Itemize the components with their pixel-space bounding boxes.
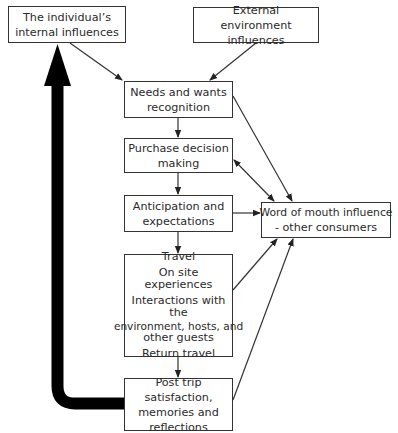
node-text: Word of mouth influence [259, 205, 392, 220]
node-text: reflections [149, 420, 208, 433]
arrow-external-to-needs [210, 43, 256, 80]
node-text: Anticipation and [133, 199, 225, 214]
node-post-trip: Post trip satisfaction, memories and ref… [124, 378, 233, 431]
node-text: Purchase decision [128, 141, 228, 156]
node-purchase-decision: Purchase decision making [124, 138, 233, 173]
node-text: The individual’s [23, 10, 111, 25]
node-text: other guests [143, 332, 213, 345]
arrow-internal-to-needs [70, 43, 122, 80]
node-text: influences [227, 33, 284, 48]
arrow-travel-to-wom [233, 239, 277, 290]
node-text: Post trip satisfaction, [127, 375, 230, 405]
node-needs-recognition: Needs and wants recognition [124, 81, 233, 118]
node-internal-influences: The individual’s internal influences [8, 6, 126, 43]
arrow-purchase-wom-bidirectional [234, 160, 274, 201]
feedback-arrow [44, 44, 124, 404]
node-anticipation: Anticipation and expectations [124, 195, 233, 232]
node-text: External environment [196, 3, 316, 33]
arrow-needs-to-wom [233, 96, 292, 201]
node-text: Needs and wants [130, 85, 227, 100]
node-travel: Travel On site experiences Interactions … [124, 254, 233, 357]
node-text: Travel [162, 251, 195, 264]
node-text: Return travel [142, 348, 215, 361]
node-text: Interactions with the [127, 295, 230, 320]
node-text: On site experiences [127, 267, 230, 292]
node-text: recognition [147, 100, 210, 115]
node-text: memories and [138, 405, 219, 420]
node-text: - other consumers [275, 220, 377, 235]
node-external-influences: External environment influences [193, 7, 319, 43]
node-text: internal influences [15, 25, 119, 40]
node-text: expectations [143, 214, 215, 229]
node-text: making [158, 156, 200, 171]
node-word-of-mouth: Word of mouth influence - other consumer… [261, 202, 391, 238]
